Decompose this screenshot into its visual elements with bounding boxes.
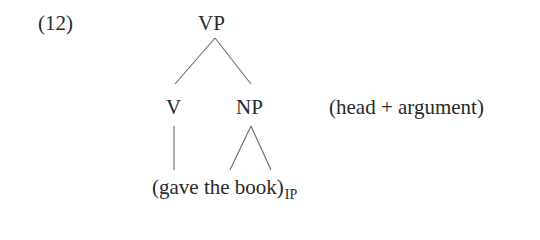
node-np: NP (236, 97, 263, 118)
branch-vp-np (215, 38, 251, 84)
triangle-np-right (251, 126, 271, 170)
node-v: V (166, 97, 181, 118)
terminal-subscript: IP (285, 187, 297, 202)
triangle-np-left (230, 126, 251, 170)
terminal-string: (gave the book)IP (152, 177, 297, 198)
annotation-label: (head + argument) (329, 97, 484, 118)
terminal-text: (gave the book) (152, 175, 284, 199)
branch-vp-v (175, 38, 215, 84)
